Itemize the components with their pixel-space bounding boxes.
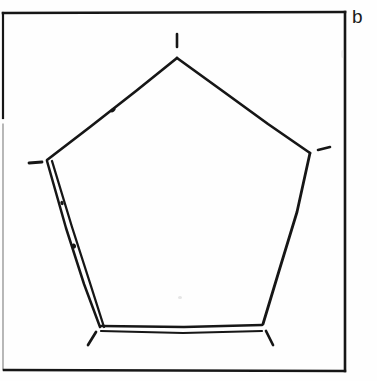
figure-page: b (0, 0, 377, 381)
pentagon-figure-canvas (0, 0, 377, 381)
scan-speck (178, 296, 182, 299)
scan-speck (341, 50, 344, 58)
panel-label-b: b (352, 6, 363, 28)
tick-left-icon (29, 162, 42, 163)
